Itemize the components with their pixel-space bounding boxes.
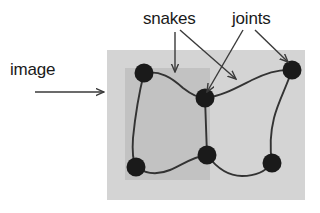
label-snakes: snakes [143,9,196,28]
joint-bottom-center [198,146,217,165]
joint-top-left [135,64,154,83]
joint-center [196,89,215,108]
joint-bottom-left [127,158,146,177]
joint-bottom-right [263,154,282,173]
label-joints: joints [231,9,271,28]
diagram-canvas: image snakes joints [0,0,320,213]
label-image: image [10,60,55,79]
snakes-joints-diagram: image snakes joints [0,0,320,213]
joint-top-right [283,61,302,80]
